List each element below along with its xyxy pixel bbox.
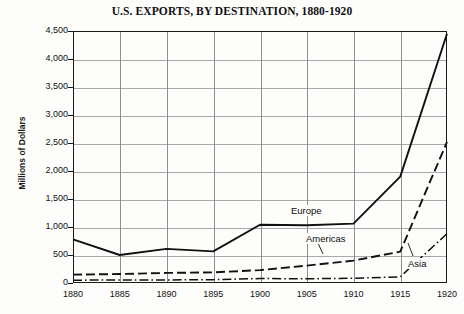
y-tick-label: 0: [8, 277, 68, 287]
gridline-vertical: [214, 32, 215, 282]
y-tick-label: 3,500: [8, 81, 68, 91]
gridline-vertical: [354, 32, 355, 282]
y-tick-label: 4,500: [8, 25, 68, 35]
chart-title: U.S. EXPORTS, BY DESTINATION, 1880-1920: [0, 5, 464, 17]
y-tick-label: 500: [8, 249, 68, 259]
gridline-vertical: [401, 32, 402, 282]
plot-area: [73, 31, 447, 283]
y-tick-label: 1,500: [8, 193, 68, 203]
gridline-vertical: [167, 32, 168, 282]
y-tick-label: 1,000: [8, 221, 68, 231]
y-tick-label: 2,000: [8, 165, 68, 175]
y-tick-label: 3,000: [8, 109, 68, 119]
series-label-americas: Americas: [305, 233, 347, 244]
gridline-vertical: [120, 32, 121, 282]
gridline-vertical: [261, 32, 262, 282]
x-tick-label: 1920: [420, 289, 464, 299]
series-label-europe: Europe: [290, 205, 323, 216]
y-tick-label: 4,000: [8, 53, 68, 63]
gridline-vertical: [307, 32, 308, 282]
chart-container: U.S. EXPORTS, BY DESTINATION, 1880-1920 …: [0, 0, 464, 314]
series-label-asia: Asia: [407, 258, 427, 269]
y-tick-label: 2,500: [8, 137, 68, 147]
